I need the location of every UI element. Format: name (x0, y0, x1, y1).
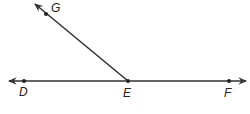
label-f: F (224, 86, 232, 100)
ray-eg (35, 4, 128, 81)
label-e: E (123, 86, 132, 100)
point-e (126, 79, 130, 83)
label-d: D (19, 85, 28, 99)
point-d (22, 79, 26, 83)
geometry-diagram: G D E F (0, 0, 250, 114)
point-g (44, 12, 48, 16)
label-g: G (51, 1, 60, 15)
point-f (227, 79, 231, 83)
